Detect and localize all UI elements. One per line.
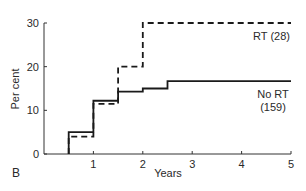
- x-tick-label: 2: [140, 158, 146, 170]
- rt-series-label: RT (28): [253, 30, 290, 42]
- x-axis-label: Years: [154, 167, 182, 179]
- y-tick-label: 30: [27, 17, 39, 29]
- y-tick-label: 0: [33, 148, 39, 160]
- x-tick-label: 4: [239, 158, 245, 170]
- y-tick-label: 10: [27, 104, 39, 116]
- step-chart: 010203012345 Per cent Years B RT (28)No …: [0, 0, 306, 191]
- y-tick-label: 20: [27, 61, 39, 73]
- y-axis-label: Per cent: [9, 69, 21, 110]
- x-tick-label: 5: [288, 158, 294, 170]
- labels: Per cent Years B RT (28)No RT(159): [9, 30, 290, 180]
- panel-label: B: [12, 166, 20, 180]
- x-tick-label: 3: [189, 158, 195, 170]
- no-rt-series-label: No RT: [257, 88, 289, 100]
- x-tick-label: 1: [90, 158, 96, 170]
- no-rt-series-count: (159): [260, 101, 286, 113]
